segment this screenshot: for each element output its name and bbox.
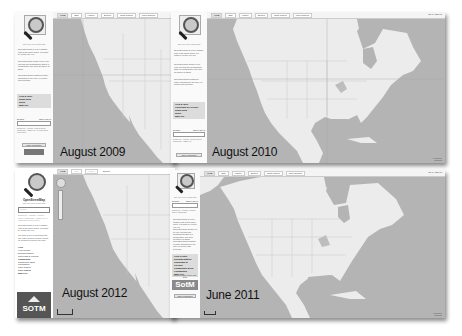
where-am-i-link[interactable]: where am I? bbox=[186, 200, 198, 202]
search-examples: Examples: 'Alkmaar', 'Regent Street, Cam… bbox=[172, 209, 198, 213]
tab-bar: View Edit History Export GPS Traces User… bbox=[200, 170, 445, 177]
search-input[interactable] bbox=[173, 132, 205, 137]
tab-history[interactable]: History bbox=[239, 13, 252, 18]
login-link[interactable]: log in | sign up bbox=[428, 13, 442, 15]
tab-user-diaries[interactable]: User Diaries bbox=[139, 13, 158, 18]
scale-bar bbox=[57, 309, 73, 315]
sidebar: OpenStreetMap The Free Wiki World Map Se… bbox=[15, 168, 54, 318]
donate-button[interactable]: Make a Donation bbox=[174, 294, 196, 298]
intro-text: OpenStreetMap's hosting is kindly suppor… bbox=[173, 240, 197, 250]
logo-subtitle: The Free Wiki World Map bbox=[15, 202, 53, 204]
sidebar: The Free Wiki World Map OpenStreetMap is… bbox=[15, 12, 54, 163]
intro-text: OpenStreetMap allows you to view, edit a… bbox=[174, 63, 204, 73]
osm-logo-icon[interactable] bbox=[177, 15, 201, 41]
screenshot-aug-2010: The Free Wiki World Map OpenStreetMap is… bbox=[171, 12, 445, 163]
tab-bar: View Edit History Export GPS Traces User… bbox=[53, 12, 175, 19]
tab-export[interactable]: Export bbox=[248, 171, 261, 176]
screenshot-jun-2011: The Free Wiki World Map Search where am … bbox=[170, 170, 445, 318]
map-canvas[interactable]: June 2011 Permalink Shortlink bbox=[200, 177, 445, 318]
tab-edit[interactable]: Edit bbox=[225, 13, 235, 18]
sotm-banner[interactable]: SotM bbox=[172, 280, 198, 290]
tab-gps-traces[interactable]: GPS Traces bbox=[264, 171, 283, 176]
osm-logo-icon[interactable] bbox=[175, 173, 195, 195]
tab-history[interactable]: History bbox=[232, 171, 245, 176]
search-panel: Search where am I? Examples: 'Alkmaar', … bbox=[173, 129, 205, 142]
nav-links: Help & Wiki Copyright & License News blo… bbox=[173, 102, 205, 119]
permalink-links[interactable]: Permalink Shortlink bbox=[432, 157, 442, 161]
date-caption: June 2011 bbox=[206, 288, 259, 302]
osm-logo-icon[interactable] bbox=[22, 15, 46, 41]
intro-text: OpenStreetMap allows you to view, edit a… bbox=[18, 60, 50, 70]
link-map-key[interactable]: Map key bbox=[19, 104, 49, 107]
scale-bar bbox=[204, 311, 216, 315]
tab-view[interactable]: View bbox=[211, 13, 222, 18]
sotm-banner[interactable]: SOTM bbox=[17, 292, 51, 318]
screenshot-aug-2012: OpenStreetMap The Free Wiki World Map Se… bbox=[15, 168, 175, 318]
zoom-control bbox=[56, 178, 64, 222]
sotm-logo-text: SOTM bbox=[17, 304, 51, 314]
intro-text: OpenStreetMap is a free editable map of … bbox=[173, 218, 197, 228]
osm-logo-icon[interactable] bbox=[22, 172, 46, 198]
intro-text: OpenStreetMap is a free editable map of … bbox=[174, 49, 204, 57]
logo-subtitle: The Free Wiki World Map bbox=[170, 196, 200, 198]
intro-text: The data is free to download and use und… bbox=[18, 234, 50, 242]
intro-text: OpenStreetMap is a free editable map of … bbox=[18, 48, 50, 56]
search-input[interactable] bbox=[172, 203, 198, 208]
donate-button[interactable]: Make a Donation bbox=[176, 153, 202, 157]
tab-history[interactable]: History bbox=[85, 169, 98, 174]
tab-gps-traces[interactable]: GPS Traces bbox=[271, 13, 290, 18]
search-examples: Examples: 'Alkmaar', 'Regent Street, Cam… bbox=[173, 138, 205, 142]
tab-gps-traces[interactable]: GPS Traces bbox=[117, 13, 136, 18]
search-label: Search bbox=[172, 200, 179, 202]
search-label: Search bbox=[17, 118, 24, 120]
sotm-promo-text[interactable]: Come to State of the Map 2011 bbox=[172, 274, 198, 279]
donate-button[interactable]: Make a Donation bbox=[22, 143, 46, 147]
nav-links: Help & Wiki News blog Shop Map key bbox=[17, 94, 51, 108]
sidebar: The Free Wiki World Map Search where am … bbox=[170, 170, 201, 318]
pan-control-icon[interactable] bbox=[56, 178, 66, 188]
tab-user-diaries[interactable]: User Diaries bbox=[286, 171, 305, 176]
tab-edit[interactable]: Edit bbox=[218, 171, 228, 176]
logo-subtitle: The Free Wiki World Map bbox=[15, 43, 53, 45]
where-am-i-link[interactable]: where am I? bbox=[39, 118, 51, 120]
date-caption: August 2010 bbox=[212, 145, 277, 159]
date-caption: August 2009 bbox=[60, 145, 125, 159]
intro-text: OpenStreetMap is a free editable map of … bbox=[18, 224, 50, 232]
search-panel: Search where am I? Examples: 'Alkmaar', … bbox=[172, 200, 198, 213]
map-canvas[interactable]: August 2009 bbox=[53, 19, 175, 163]
permalink-links[interactable]: Permalink Shortlink bbox=[432, 312, 442, 316]
tab-bar: View Edit History Export GPS Traces User… bbox=[207, 12, 445, 19]
map-canvas[interactable]: August 2012 bbox=[53, 175, 175, 318]
tab-export[interactable]: Export bbox=[101, 13, 114, 18]
date-caption: August 2012 bbox=[62, 286, 127, 300]
tab-edit[interactable]: Edit bbox=[71, 13, 81, 18]
tab-view[interactable]: View bbox=[57, 13, 68, 18]
donate-badge bbox=[24, 149, 44, 155]
nav-links: Help Help Centre Documentation Copyright… bbox=[18, 246, 39, 275]
link-map-key[interactable]: Map Key bbox=[18, 272, 39, 275]
tab-bar: View Edit History Export bbox=[53, 168, 175, 175]
link-map-key[interactable]: Map key bbox=[175, 115, 203, 118]
tab-user-diaries[interactable]: User Diaries bbox=[293, 13, 312, 18]
map-canvas[interactable]: August 2010 Permalink Shortlink bbox=[207, 19, 445, 163]
tab-export[interactable]: Export bbox=[255, 13, 268, 18]
where-am-i-link[interactable]: where am I? bbox=[193, 129, 205, 131]
tab-view[interactable]: View bbox=[204, 171, 215, 176]
map-west-coast bbox=[53, 19, 175, 163]
search-examples: Examples: 'Alkmaar', 'Regent Street, Cam… bbox=[18, 214, 50, 222]
intro-text: OpenStreetMap's hosting is kindly suppor… bbox=[18, 74, 50, 82]
zoom-slider[interactable] bbox=[58, 190, 63, 220]
login-link[interactable]: log in | sign up bbox=[428, 171, 442, 173]
tab-edit[interactable]: Edit bbox=[71, 169, 81, 174]
logo-subtitle: The Free Wiki World Map bbox=[171, 43, 207, 45]
sidebar: The Free Wiki World Map OpenStreetMap is… bbox=[171, 12, 208, 163]
search-examples: Examples: 'Alkmaar', 'Regent Street, Cam… bbox=[17, 127, 51, 134]
tab-view[interactable]: View bbox=[57, 169, 68, 174]
tab-export[interactable]: Export bbox=[101, 170, 112, 173]
search-label: Search bbox=[173, 129, 180, 131]
screenshot-aug-2009: The Free Wiki World Map OpenStreetMap is… bbox=[15, 12, 175, 163]
search-input[interactable]: Search bbox=[18, 207, 50, 213]
tab-history[interactable]: History bbox=[85, 13, 98, 18]
search-input[interactable] bbox=[17, 121, 51, 126]
intro-text: OpenStreetMap's hosting is kindly suppor… bbox=[174, 78, 204, 86]
